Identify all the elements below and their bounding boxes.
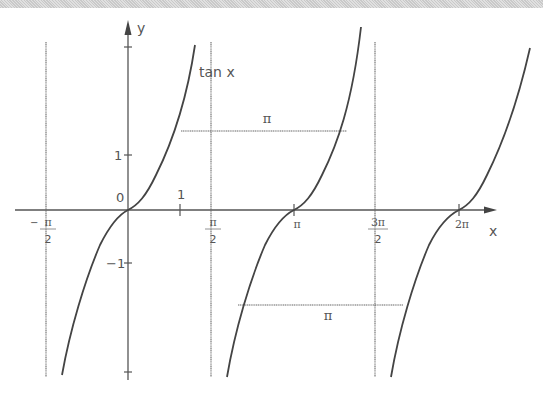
x-tick-1-label: 1 [177,187,185,202]
svg-text:π: π [44,216,51,229]
y-tick-neg1-label: −1 [106,256,125,271]
lower-period-label: π [324,308,333,323]
y-axis-label: y [137,20,145,36]
x-tick-three-half-pi-label: 3π 2 [368,216,388,246]
svg-text:3π: 3π [371,216,385,229]
x-axis-arrow-icon [484,207,497,214]
y-axis-arrow-icon [125,20,132,35]
x-tick-neg-half-pi-label: − π 2 [30,216,56,246]
svg-text:−: − [30,217,38,228]
upper-period-label: π [263,111,272,126]
svg-text:2: 2 [45,233,52,246]
x-tick-half-pi-label: π 2 [205,216,221,246]
y-tick-1-label: 1 [114,148,122,163]
svg-text:2: 2 [375,233,382,246]
tan-graph: y x tan x 0 1 −1 1 − π 2 π 2 π 3π 2 2π π… [0,0,543,413]
origin-label: 0 [116,190,124,205]
curve-label: tan x [199,64,235,80]
x-tick-two-pi-label: 2π [455,218,469,231]
x-axis-label: x [489,223,497,239]
tan-curves [62,27,530,377]
axes [15,30,490,380]
tan-branch-2 [227,27,361,377]
svg-text:2: 2 [210,233,217,246]
x-tick-pi-label: π [293,218,300,231]
tan-branch-3 [391,48,530,377]
svg-text:π: π [209,216,216,229]
